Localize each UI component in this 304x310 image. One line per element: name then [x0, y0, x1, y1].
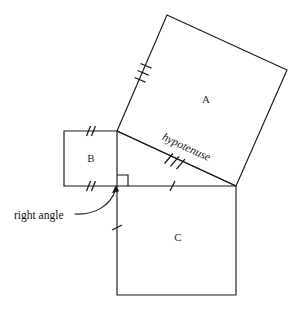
square-b-label: B [87, 152, 94, 164]
square-c-label: C [174, 231, 181, 243]
right-angle-leader-arrow [75, 190, 116, 214]
square-a-edge-ticks [135, 64, 152, 83]
right-angle-label: right angle [14, 209, 64, 222]
right-angle-marker [117, 175, 128, 186]
pythagorean-diagram-canvas: A B C hypotenuse right angle [0, 0, 304, 310]
square-a-label: A [202, 93, 210, 105]
right-angle-arrowhead [112, 186, 119, 194]
